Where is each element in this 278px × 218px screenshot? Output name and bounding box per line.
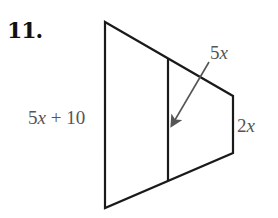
right-base-label: 2x [237,115,256,136]
trapezoid-figure: 5x + 10 5x 2x [0,0,278,218]
left-base-label: 5x + 10 [28,107,85,128]
midsegment-label: 5x [210,42,229,63]
